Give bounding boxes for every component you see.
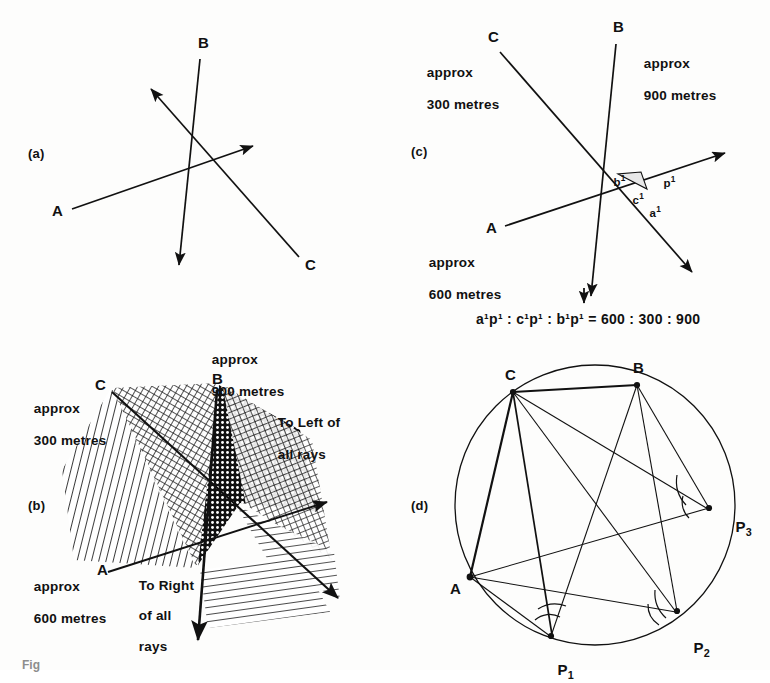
panel-c-annotation-approx-300: approx 300 metres xyxy=(411,49,499,129)
circumscribing-circle xyxy=(455,365,735,645)
panel-a-point-B: B xyxy=(198,34,209,52)
triangle-label-a-prime: a1 xyxy=(636,191,661,234)
chord-C-P1 xyxy=(513,392,552,635)
panel-b-point-B: B xyxy=(212,370,223,388)
chord-C-P3 xyxy=(513,392,708,509)
chord-C-A xyxy=(470,392,513,577)
panel-d-point-P2: P2 xyxy=(676,621,710,677)
panel-a-rays xyxy=(72,59,299,265)
approx-900-line1: approx xyxy=(212,352,258,367)
panel-d-circle-group xyxy=(455,365,735,645)
panel-c-annotation-approx-900: approx 900 metres xyxy=(628,40,716,120)
panel-a-tag: (a) xyxy=(28,146,45,161)
to-right-line3: rays xyxy=(139,639,168,654)
panel-c-tag: (c) xyxy=(411,144,428,159)
panel-c-ratio-formula: a¹p¹ : c¹p¹ : b¹p¹ = 600 : 300 : 900 xyxy=(476,311,700,328)
panel-c-point-B: B xyxy=(613,18,624,36)
panel-b-annotation-to-right: To Right of all rays xyxy=(123,563,194,669)
c-approx-300-line2: 300 metres xyxy=(427,97,500,112)
figure-caption: Fig xyxy=(22,658,40,672)
chord-A-P2 xyxy=(470,577,676,612)
P2-base: P xyxy=(693,639,703,656)
approx-600-line1: approx xyxy=(34,579,80,594)
panel-a-point-C: C xyxy=(305,256,316,274)
approx-300-line2: 300 metres xyxy=(34,433,107,448)
panel-d-point-A: A xyxy=(450,580,461,598)
c-approx-300-line1: approx xyxy=(427,65,473,80)
panel-d-tag: (d) xyxy=(411,498,428,513)
panel-b-annotation-approx-600: approx 600 metres xyxy=(18,563,106,643)
c-approx-600-line2: 600 metres xyxy=(429,287,502,302)
p-prime-base: p xyxy=(664,176,671,188)
approx-300-line1: approx xyxy=(34,401,80,416)
panel-b-annotation-to-left: To Left of all rays xyxy=(262,399,340,479)
angle-arc-p2-b xyxy=(655,590,666,618)
chord-A-P1 xyxy=(470,577,550,636)
panel-b-point-C: C xyxy=(95,376,106,394)
c-approx-600-line1: approx xyxy=(429,255,475,270)
panel-d-point-P3: P3 xyxy=(718,500,752,556)
approx-600-line2: 600 metres xyxy=(34,611,107,626)
to-right-line1: To Right xyxy=(139,578,194,593)
P1-base: P xyxy=(557,661,567,678)
c-approx-900-line2: 900 metres xyxy=(644,88,717,103)
P2-sub: 2 xyxy=(704,647,710,659)
panel-a-point-A: A xyxy=(52,202,63,220)
angle-arc-p1-b xyxy=(538,604,566,609)
chord-C-B xyxy=(513,385,637,392)
panel-b-annotation-approx-300: approx 300 metres xyxy=(18,385,106,465)
P3-sub: 3 xyxy=(746,526,752,538)
to-left-line2: all rays xyxy=(278,447,326,462)
panel-d-point-C: C xyxy=(505,366,516,384)
to-left-line1: To Left of xyxy=(278,415,340,430)
p-prime-mark: 1 xyxy=(671,175,676,184)
panel-c-point-A: A xyxy=(486,219,497,237)
c-approx-900-line1: approx xyxy=(644,56,690,71)
chord-C-P2 xyxy=(513,392,676,612)
angle-arc-p3-a xyxy=(682,496,689,518)
panel-b-tag: (b) xyxy=(28,498,45,513)
ray-from-A xyxy=(72,146,253,209)
panel-c-annotation-approx-600: approx 600 metres xyxy=(413,239,501,319)
angle-arc-p3-b xyxy=(676,475,686,505)
P1-sub: 1 xyxy=(568,669,574,681)
to-right-line2: of all xyxy=(139,608,172,623)
panel-d-point-P1: P1 xyxy=(540,643,574,683)
a-prime-mark: 1 xyxy=(656,205,661,214)
chord-lines xyxy=(470,385,709,636)
panel-d-point-B: B xyxy=(633,359,644,377)
ray-from-B xyxy=(179,59,200,265)
P3-base: P xyxy=(735,518,745,535)
panel-b-point-A: A xyxy=(97,561,108,579)
chord-A-P3 xyxy=(470,508,709,577)
panel-c-point-C: C xyxy=(488,28,499,46)
